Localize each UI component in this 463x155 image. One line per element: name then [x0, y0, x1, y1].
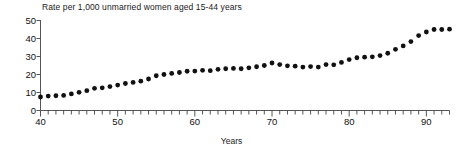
- data-point: [347, 57, 352, 62]
- data-point: [285, 63, 290, 68]
- x-axis-tick-label: 60: [190, 116, 201, 127]
- data-point: [393, 47, 398, 52]
- x-axis-tick-label: 90: [421, 116, 432, 127]
- chart-plot-area: [0, 0, 463, 155]
- data-point: [200, 68, 205, 73]
- data-point: [308, 64, 313, 69]
- data-point: [84, 88, 89, 93]
- data-point: [355, 55, 360, 60]
- data-point: [38, 95, 43, 100]
- data-point: [401, 43, 406, 48]
- data-point: [300, 65, 305, 70]
- data-point: [378, 53, 383, 58]
- data-point: [177, 70, 182, 75]
- data-point: [239, 66, 244, 71]
- data-point: [270, 61, 275, 66]
- data-point: [362, 55, 367, 60]
- x-axis-tick-label: 40: [35, 116, 46, 127]
- data-point: [246, 65, 251, 70]
- data-point: [331, 62, 336, 67]
- data-point: [316, 65, 321, 70]
- data-point: [339, 60, 344, 65]
- x-axis-tick-label: 50: [112, 116, 123, 127]
- data-point: [370, 54, 375, 59]
- data-point: [409, 39, 414, 44]
- data-point: [208, 68, 213, 73]
- data-point: [131, 80, 136, 85]
- data-point: [138, 79, 143, 84]
- data-point: [123, 81, 128, 86]
- data-point: [447, 27, 452, 32]
- data-point: [154, 73, 159, 78]
- data-point: [185, 69, 190, 74]
- data-point: [385, 51, 390, 56]
- x-axis-tick-label: 80: [344, 116, 355, 127]
- data-point: [324, 62, 329, 67]
- data-point: [115, 83, 120, 88]
- data-point: [162, 72, 167, 77]
- data-point: [100, 85, 105, 90]
- data-point: [108, 84, 113, 89]
- data-point: [169, 71, 174, 76]
- data-point: [439, 27, 444, 32]
- data-point: [424, 30, 429, 35]
- chart-container: Rate per 1,000 unmarried women aged 15-4…: [0, 0, 463, 155]
- data-point: [262, 63, 267, 68]
- data-series: [38, 27, 452, 100]
- x-axis-tick-label: 70: [267, 116, 278, 127]
- data-point: [432, 27, 437, 32]
- data-point: [146, 77, 151, 82]
- data-point: [223, 66, 228, 71]
- data-point: [231, 66, 236, 71]
- data-point: [277, 62, 282, 67]
- data-point: [54, 93, 59, 98]
- data-point: [216, 67, 221, 72]
- data-point: [293, 64, 298, 69]
- data-point: [77, 90, 82, 95]
- data-point: [61, 93, 66, 98]
- data-point: [92, 86, 97, 91]
- data-point: [416, 33, 421, 38]
- data-point: [46, 94, 51, 99]
- data-point: [254, 64, 259, 69]
- data-point: [192, 69, 197, 74]
- data-point: [69, 92, 74, 97]
- x-axis-label: Years: [0, 136, 463, 146]
